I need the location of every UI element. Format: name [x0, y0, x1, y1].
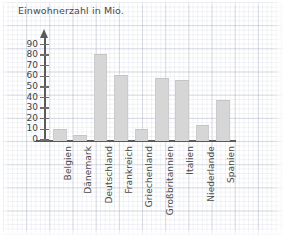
x-axis-category-label: Griechenland: [144, 146, 154, 207]
bar: [135, 129, 149, 141]
y-axis-tick: [40, 76, 49, 77]
y-axis-tick-label: 60: [16, 71, 38, 80]
y-axis-tick: [40, 129, 49, 130]
bar: [73, 135, 87, 141]
bar: [216, 100, 230, 141]
y-axis-tick-label: 50: [16, 82, 38, 91]
y-axis-tick: [40, 86, 49, 87]
bar: [196, 125, 210, 141]
y-axis-tick-label: 80: [16, 50, 38, 59]
x-axis-category-label: Großbritannien: [165, 146, 175, 215]
bar: [155, 78, 169, 141]
y-axis-tick-label: 10: [16, 124, 38, 133]
y-axis-tick: [40, 65, 49, 66]
x-axis-category-label: Frankreich: [124, 146, 134, 194]
y-axis-tick: [40, 118, 49, 119]
x-axis-category-label: Niederlande: [206, 146, 216, 202]
y-axis-tick-label: 20: [16, 114, 38, 123]
y-axis-tick: [40, 107, 49, 108]
y-axis-tick-label: 70: [16, 61, 38, 70]
x-axis-category-label: Belgien: [63, 146, 73, 180]
bar-chart: Einwohnerzahl in Mio. 010203040506070809…: [0, 0, 284, 236]
y-axis-tick: [40, 54, 49, 55]
y-axis-tick-labels: 0102030405060708090: [10, 0, 38, 236]
bar: [53, 129, 67, 141]
y-axis-tick: [40, 139, 49, 140]
y-axis-tick-label: 0: [16, 135, 38, 144]
x-axis-category-label: Dänemark: [83, 146, 93, 194]
y-axis-line: [44, 36, 46, 141]
y-axis-arrow-icon: [40, 29, 48, 38]
x-axis-category-label: Deutschland: [104, 146, 114, 204]
y-axis-tick-label: 40: [16, 93, 38, 102]
y-axis-tick-label: 90: [16, 40, 38, 49]
x-axis-category-label: Spanien: [226, 146, 236, 183]
y-axis-tick: [40, 97, 49, 98]
bar: [175, 80, 189, 141]
x-axis-category-label: Italien: [185, 146, 195, 175]
y-axis-tick-label: 30: [16, 103, 38, 112]
bar: [94, 54, 108, 141]
bar: [114, 75, 128, 141]
y-axis-tick: [40, 44, 49, 45]
